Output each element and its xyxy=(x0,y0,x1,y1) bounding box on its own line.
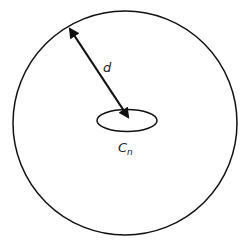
diagram-canvas: d Cn xyxy=(0,0,248,244)
curve-label: Cn xyxy=(118,140,133,157)
curve-label-subscript: n xyxy=(127,147,133,157)
distance-arrow xyxy=(70,29,128,117)
distance-label: d xyxy=(103,60,112,75)
outer-circle xyxy=(13,11,237,235)
inner-ellipse xyxy=(97,110,157,132)
